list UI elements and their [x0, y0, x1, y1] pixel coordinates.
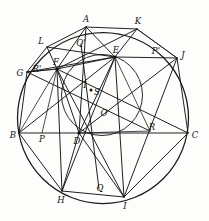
hull-edges	[19, 27, 188, 197]
geometry-canvas	[0, 0, 209, 221]
geometry-figure: A K L J G B C H I E F D Q' P' R' P R Q I…	[0, 0, 209, 221]
inner-circle	[62, 55, 143, 136]
diagonal-chords	[19, 27, 188, 197]
